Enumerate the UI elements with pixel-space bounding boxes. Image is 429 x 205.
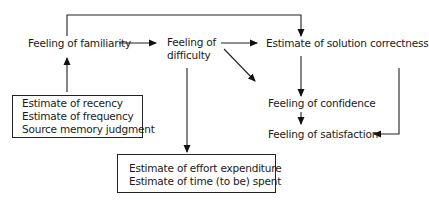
node-feeling-of-difficulty: Feeling of difficulty <box>167 36 216 62</box>
difficulty-line-2: difficulty <box>167 49 216 62</box>
memory-judgments-box: Estimate of recency Estimate of frequenc… <box>12 95 143 138</box>
effort-estimates-box: Estimate of effort expenditure Estimate … <box>117 154 276 193</box>
effort-line-time: Estimate of time (to be) spent <box>129 175 275 188</box>
memory-line-recency: Estimate of recency <box>22 97 142 110</box>
node-feeling-of-familiarity: Feeling of familiarity <box>28 37 131 50</box>
arrow-familiarity-to-correctness <box>67 15 301 36</box>
node-feeling-of-confidence: Feeling of confidence <box>268 97 376 110</box>
effort-line-expenditure: Estimate of effort expenditure <box>129 162 275 175</box>
memory-line-source: Source memory judgment <box>22 123 142 136</box>
memory-line-frequency: Estimate of frequency <box>22 110 142 123</box>
difficulty-line-1: Feeling of <box>167 36 216 49</box>
arrow-bracket-to-satisfaction <box>374 68 399 134</box>
arrow-difficulty-diagonal <box>224 49 255 81</box>
node-estimate-of-solution-correctness: Estimate of solution correctness <box>266 37 429 50</box>
node-feeling-of-satisfaction: Feeling of satisfaction <box>268 128 378 141</box>
